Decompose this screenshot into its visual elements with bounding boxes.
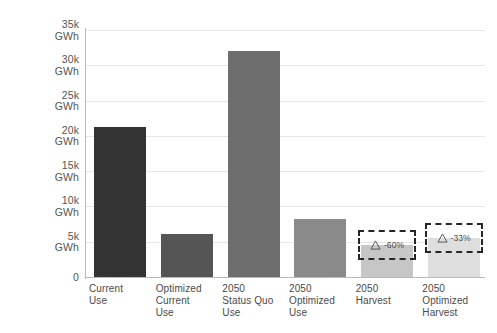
x-axis-label-line: Current (156, 295, 221, 307)
y-tick-value: 35k (3, 19, 79, 31)
x-axis-category-label: 2050OptimizedHarvest (422, 283, 487, 319)
x-axis-label-line: Use (89, 295, 154, 307)
delta-triangle-icon (437, 233, 448, 243)
x-axis-label-line: 2050 (289, 283, 354, 295)
bar-group[interactable] (228, 30, 280, 277)
y-axis-tick-label: 25kGWh (3, 90, 79, 113)
x-axis: CurrentUseOptimizedCurrentUse2050Status … (85, 283, 485, 333)
y-tick-unit: GWh (3, 207, 79, 219)
y-axis-tick-label: 35kGWh (3, 19, 79, 42)
bar-group[interactable] (94, 30, 146, 277)
y-axis-tick-label: 10kGWh (3, 195, 79, 218)
y-tick-unit: GWh (3, 31, 79, 43)
bar[interactable] (228, 51, 280, 277)
bar[interactable] (161, 234, 213, 277)
y-tick-unit: GWh (3, 136, 79, 148)
x-axis-label-line: Optimized (289, 295, 354, 307)
y-tick-unit: GWh (3, 242, 79, 254)
y-axis-tick-label: 15kGWh (3, 160, 79, 183)
x-axis-label-line: Optimized (422, 295, 487, 307)
bar-group[interactable] (161, 30, 213, 277)
bar[interactable] (294, 219, 346, 277)
bar-series: -60%-33% (85, 30, 485, 277)
x-axis-label-line: 2050 (422, 283, 487, 295)
x-axis-label-line: 2050 (222, 283, 287, 295)
y-axis-tick-label: 5kGWh (3, 231, 79, 254)
delta-annotation-badge[interactable]: -33% (425, 223, 483, 253)
delta-annotation-badge[interactable]: -60% (358, 230, 416, 260)
x-axis-label-line: Current (89, 283, 154, 295)
x-axis-label-line: Status Quo (222, 295, 287, 307)
y-axis-tick-label: 0 (3, 272, 79, 284)
x-axis-category-label: 2050Harvest (356, 283, 421, 307)
x-axis-category-label: CurrentUse (89, 283, 154, 307)
x-axis-line (85, 277, 485, 278)
bar-group[interactable] (294, 30, 346, 277)
delta-annotation-label: -33% (451, 233, 471, 243)
x-axis-label-line: Use (222, 307, 287, 319)
x-axis-category-label: 2050Status QuoUse (222, 283, 287, 319)
y-tick-unit: GWh (3, 66, 79, 78)
delta-triangle-icon (370, 240, 381, 250)
x-axis-category-label: 2050OptimizedUse (289, 283, 354, 319)
x-axis-label-line: Use (156, 307, 221, 319)
bar[interactable] (94, 127, 146, 277)
x-axis-label-line: Optimized (156, 283, 221, 295)
x-axis-label-line: Harvest (422, 307, 487, 319)
y-tick-unit: GWh (3, 172, 79, 184)
y-tick-unit: GWh (3, 101, 79, 113)
x-axis-label-line: Use (289, 307, 354, 319)
y-tick-value: 0 (3, 272, 79, 284)
y-axis: 35kGWh30kGWh25kGWh20kGWh15kGWh10kGWh5kGW… (0, 0, 79, 333)
x-axis-label-line: Harvest (356, 295, 421, 307)
y-tick-value: 15k (3, 160, 79, 172)
delta-annotation-label: -60% (384, 240, 404, 250)
x-axis-label-line: 2050 (356, 283, 421, 295)
y-axis-tick-label: 20kGWh (3, 125, 79, 148)
bar-chart: 35kGWh30kGWh25kGWh20kGWh15kGWh10kGWh5kGW… (0, 0, 497, 333)
x-axis-category-label: OptimizedCurrentUse (156, 283, 221, 319)
y-axis-tick-label: 30kGWh (3, 54, 79, 77)
